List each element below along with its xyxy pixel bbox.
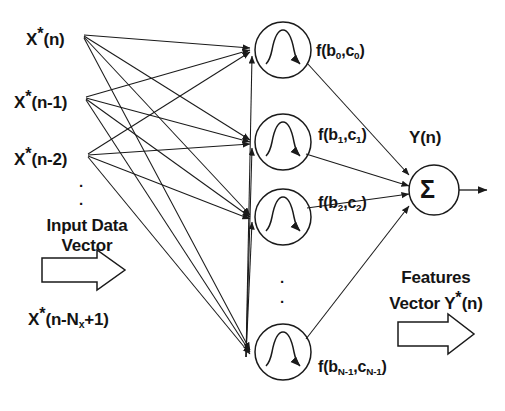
- features-caption-line1: Features: [366, 268, 505, 287]
- hidden-label-3-f: f(b: [318, 358, 338, 375]
- hidden-label-1: f(b1,c1): [318, 126, 367, 145]
- hidden-label-3: f(bN-1,cN-1): [318, 358, 387, 377]
- input-ellipsis-dot-1: ·: [79, 178, 84, 195]
- input-label-2: X*(n-2): [14, 144, 67, 169]
- hidden-neuron-circles: [255, 22, 311, 380]
- hidden-label-0: f(b0,c0): [316, 42, 365, 61]
- hidden-label-2-mid: ,c: [343, 194, 356, 211]
- hidden-label-2-close: ): [361, 194, 366, 211]
- output-label: Y(n): [409, 128, 441, 147]
- input-label-1-tail: (n-1): [31, 93, 67, 112]
- hidden-label-0-f: f(b: [316, 42, 336, 59]
- input-label-3-tail-pre: (n-N: [45, 310, 78, 329]
- hidden-label-3-sub0: N-1: [338, 366, 353, 377]
- hidden-label-3-sub1: N-1: [366, 366, 381, 377]
- input-label-1: X*(n-1): [14, 87, 67, 112]
- sigma-icon: Σ: [420, 175, 435, 203]
- hidden-label-2-f: f(b: [318, 194, 338, 211]
- features-caption-line2: Vector Y*(n): [366, 288, 505, 313]
- hidden-ellipsis-dot-1: ·: [280, 274, 285, 291]
- neural-network-diagram: X*(n) X*(n-1) X*(n-2) X*(n-Nx+1) · · Inp…: [0, 0, 505, 411]
- hidden-label-1-mid: ,c: [343, 126, 356, 143]
- hidden-label-2: f(b2,c2): [318, 194, 367, 213]
- input-label-2-base: X: [14, 150, 25, 169]
- input-label-3-base: X: [28, 310, 39, 329]
- hidden-label-3-close: ): [382, 358, 387, 375]
- input-to-hidden-connections: [84, 35, 252, 357]
- features-caption-post: (n): [462, 294, 483, 313]
- input-vector-caption-line1: Input Data: [27, 216, 147, 235]
- input-label-0-tail: (n): [43, 30, 64, 49]
- input-vector-caption-line2: Vector: [27, 236, 147, 255]
- features-caption-pre: Vector Y: [389, 294, 455, 313]
- features-block-arrow: [398, 314, 474, 354]
- input-block-arrow: [42, 250, 125, 290]
- input-ellipsis-dot-2: ·: [79, 196, 84, 213]
- hidden-label-3-mid: ,c: [353, 358, 366, 375]
- hidden-label-0-mid: ,c: [341, 42, 354, 59]
- input-label-1-base: X: [14, 93, 25, 112]
- hidden-label-1-f: f(b: [318, 126, 338, 143]
- input-label-0: X*(n): [26, 24, 65, 49]
- hidden-label-0-close: ): [359, 42, 364, 59]
- input-label-0-base: X: [26, 30, 37, 49]
- input-label-3: X*(n-Nx+1): [28, 304, 109, 330]
- input-label-3-tail-post: +1): [84, 310, 108, 329]
- hidden-label-1-close: ): [361, 126, 366, 143]
- network-graphics: [0, 0, 505, 411]
- hidden-ellipsis-dot-2: ·: [280, 294, 285, 311]
- input-label-2-tail: (n-2): [31, 150, 67, 169]
